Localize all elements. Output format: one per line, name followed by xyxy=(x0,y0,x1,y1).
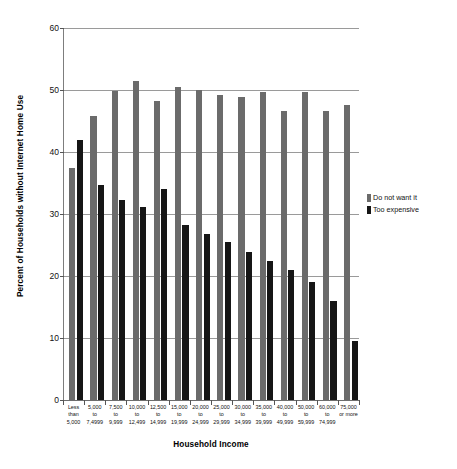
x-tick-label: 75,000or more xyxy=(338,404,359,419)
bar-0 xyxy=(90,116,96,400)
y-tick-label-50: 50 xyxy=(50,85,59,95)
y-tick-label-60: 60 xyxy=(50,23,59,33)
bar-1 xyxy=(330,301,336,400)
bar-0 xyxy=(344,105,350,400)
y-tick-label-10: 10 xyxy=(50,333,59,343)
bar-0 xyxy=(281,111,287,400)
bar-1 xyxy=(225,242,231,400)
x-tick-label: 15,000to19,999 xyxy=(169,404,190,426)
bar-group xyxy=(254,28,275,400)
bar-1 xyxy=(140,207,146,400)
bar-group xyxy=(339,28,360,400)
legend-item[interactable]: Do not want it xyxy=(367,192,457,203)
bar-1 xyxy=(161,189,167,400)
x-tick-label: 30,000to34,999 xyxy=(232,404,253,426)
bar-group xyxy=(85,28,106,400)
x-tick-label: 35,000to39,999 xyxy=(253,404,274,426)
bar-0 xyxy=(196,90,202,400)
bar-1 xyxy=(119,200,125,400)
bar-group xyxy=(149,28,170,400)
bar-1 xyxy=(98,185,104,400)
x-tick-label: 7,500to9,999 xyxy=(105,404,126,426)
x-tick-label: 60,000to74,999 xyxy=(317,404,338,426)
x-axis-title: Household Income xyxy=(63,440,359,449)
chart-container: Percent of Households without Internet H… xyxy=(0,0,457,469)
bar-0 xyxy=(112,91,118,400)
x-tick-label: Lessthan5,000 xyxy=(63,404,84,426)
bar-0 xyxy=(238,97,244,400)
bar-group xyxy=(318,28,339,400)
y-tick-label-40: 40 xyxy=(50,147,59,157)
x-tick-mark xyxy=(359,400,360,405)
x-tick-label: 20,000to24,999 xyxy=(190,404,211,426)
y-axis-title: Percent of Households without Internet H… xyxy=(14,16,28,376)
bar-group xyxy=(127,28,148,400)
bar-1 xyxy=(288,270,294,400)
chart-legend: Do not want itToo expensive xyxy=(367,192,457,216)
bar-group xyxy=(170,28,191,400)
bar-group xyxy=(191,28,212,400)
bar-group xyxy=(212,28,233,400)
bar-0 xyxy=(154,101,160,400)
x-tick-label: 50,000to59,999 xyxy=(296,404,317,426)
legend-label: Do not want it xyxy=(373,193,417,202)
x-tick-label: 40,000to49,999 xyxy=(274,404,295,426)
bar-0 xyxy=(260,92,266,400)
bar-1 xyxy=(182,225,188,400)
legend-item[interactable]: Too expensive xyxy=(367,204,457,215)
bar-1 xyxy=(352,341,358,400)
x-tick-label: 25,000to29,999 xyxy=(211,404,232,426)
bar-group xyxy=(106,28,127,400)
x-tick-label: 5,000to7,4999 xyxy=(84,404,105,426)
y-tick-label-0: 0 xyxy=(54,395,59,405)
x-tick-label: 10,000to12,499 xyxy=(126,404,147,426)
bar-0 xyxy=(133,81,139,400)
plot-area: 0102030405060 xyxy=(63,28,359,400)
y-tick-label-30: 30 xyxy=(50,209,59,219)
bar-1 xyxy=(77,140,83,400)
bar-group xyxy=(233,28,254,400)
x-axis-tick-labels: Lessthan5,0005,000to7,49997,500to9,99910… xyxy=(63,404,359,436)
bar-1 xyxy=(267,261,273,400)
legend-label: Too expensive xyxy=(373,205,419,214)
bar-group xyxy=(64,28,85,400)
bar-0 xyxy=(302,92,308,400)
bar-1 xyxy=(309,282,315,400)
bar-group xyxy=(275,28,296,400)
bar-1 xyxy=(204,234,210,400)
y-tick-label-20: 20 xyxy=(50,271,59,281)
bar-0 xyxy=(323,111,329,400)
bar-0 xyxy=(69,168,75,401)
legend-swatch-icon xyxy=(367,194,371,202)
bar-0 xyxy=(217,95,223,400)
bar-0 xyxy=(175,87,181,400)
x-tick-label: 12,500to14,999 xyxy=(148,404,169,426)
bar-group xyxy=(297,28,318,400)
bar-1 xyxy=(246,252,252,400)
legend-swatch-icon xyxy=(367,206,371,214)
bars-layer xyxy=(64,28,359,400)
